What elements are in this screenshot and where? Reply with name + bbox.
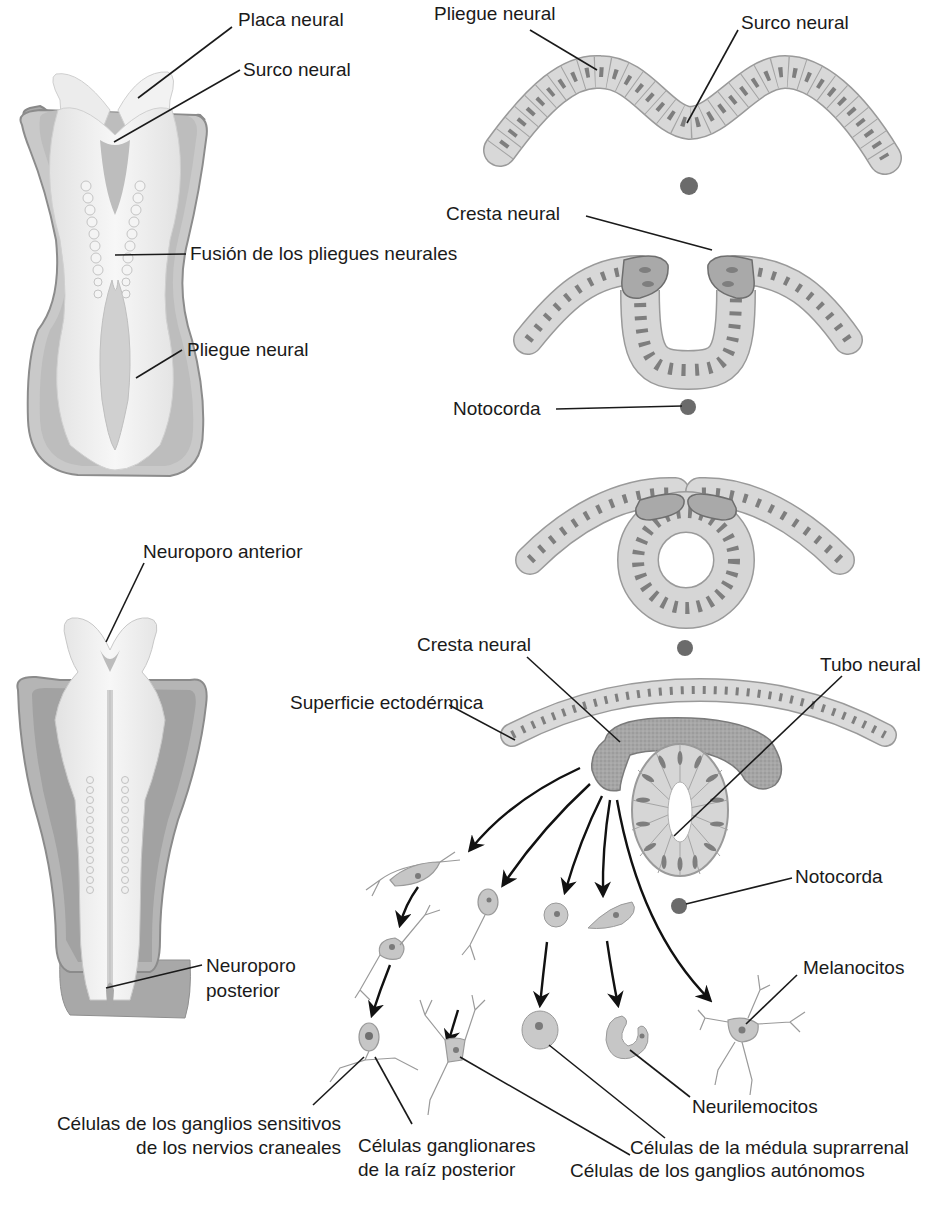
label-neural-fold-section: Pliegue neural (434, 3, 555, 25)
label-neural-groove-embryo: Surco neural (243, 59, 351, 81)
dorsal-root-precursor (462, 889, 498, 960)
label-dorsal-root-2: de la raíz posterior (358, 1159, 515, 1181)
label-sensory-ganglia-1: Células de los ganglios sensitivos (57, 1113, 341, 1135)
label-posterior-neuropore-1: Neuroporo (206, 955, 296, 977)
label-adrenal-medulla: Células de la médula suprarrenal (630, 1137, 909, 1159)
label-surface-ectoderm: Superficie ectodérmica (290, 692, 483, 714)
melanocyte-cell (698, 975, 805, 1095)
round-precursor-cell (544, 903, 568, 927)
label-posterior-neuropore-2: posterior (206, 980, 280, 1002)
label-neural-tube: Tubo neural (820, 654, 921, 676)
label-neurilemmocytes: Neurilemocitos (692, 1096, 818, 1118)
label-notochord-stage2: Notocorda (453, 398, 541, 420)
adrenal-medulla-cell (522, 1011, 558, 1049)
label-anterior-neuropore: Neuroporo anterior (143, 541, 302, 563)
sensory-ganglion-cell (330, 1023, 418, 1082)
embryo-neural-tube-stage (17, 563, 206, 1018)
spindle-precursor-cell (588, 902, 634, 929)
label-neural-crest-stage2: Cresta neural (446, 203, 560, 225)
pseudo-unipolar-precursor (355, 905, 440, 1000)
label-neural-crest-stage4: Cresta neural (417, 634, 531, 656)
label-neural-fold-fusion: Fusión de los pliegues neurales (190, 243, 457, 265)
label-neural-fold-embryo: Pliegue neural (187, 339, 308, 361)
label-neural-groove-section: Surco neural (741, 12, 849, 34)
section-neural-fold (528, 216, 848, 415)
label-sensory-ganglia-2: de los nervios craneales (136, 1137, 341, 1159)
label-autonomic-ganglia: Células de los ganglios autónomos (570, 1160, 865, 1182)
label-melanocytes: Melanocitos (803, 957, 904, 979)
schwann-cell (606, 1016, 648, 1059)
section-tube-closing (530, 492, 840, 656)
label-dorsal-root-1: Células ganglionares (358, 1135, 535, 1157)
diagram-artwork (0, 0, 951, 1209)
label-notochord-stage4: Notocorda (795, 866, 883, 888)
neural-crest-diagram: Placa neural Surco neural Fusión de los … (0, 0, 951, 1209)
label-neural-plate: Placa neural (238, 9, 344, 31)
dorsal-root-ganglion-cell (420, 995, 485, 1115)
bipolar-precursor-cell (366, 852, 460, 896)
section-neural-groove (500, 30, 885, 195)
